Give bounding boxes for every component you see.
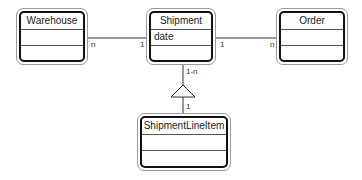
class-name: ShipmentLineItem (142, 118, 226, 135)
class-attributes (142, 135, 226, 151)
class-shipment[interactable]: Shipment date (146, 8, 216, 65)
attribute-date: date (154, 31, 173, 42)
class-attributes: date (151, 30, 211, 46)
class-order[interactable]: Order (276, 8, 348, 65)
class-name: Order (281, 13, 343, 30)
multiplicity-shipment-bottom: 1-n (186, 67, 198, 76)
class-operations (142, 151, 226, 166)
class-operations (281, 46, 343, 61)
multiplicity-shipment-right: 1 (220, 40, 224, 49)
class-operations (21, 46, 83, 61)
class-name: Warehouse (21, 13, 83, 30)
class-attributes (21, 30, 83, 46)
multiplicity-order: n (270, 40, 274, 49)
triangle-icon (171, 85, 195, 97)
multiplicity-shipment-left: 1 (140, 40, 144, 49)
class-warehouse[interactable]: Warehouse (16, 8, 88, 65)
multiplicity-lineitem: 1 (186, 102, 190, 111)
multiplicity-warehouse: n (91, 40, 95, 49)
class-attributes (281, 30, 343, 46)
class-name: Shipment (151, 13, 211, 30)
class-shipment-line-item[interactable]: ShipmentLineItem (137, 113, 231, 171)
class-operations (151, 46, 211, 61)
